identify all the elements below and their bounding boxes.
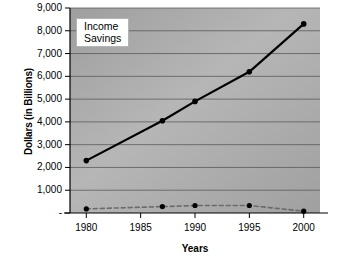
data-point-savings bbox=[301, 209, 306, 214]
data-point-savings bbox=[160, 204, 165, 209]
chart-legend: Income Savings bbox=[76, 18, 129, 47]
data-point-income bbox=[160, 118, 166, 124]
data-point-income bbox=[247, 69, 253, 75]
x-tick-label: 1990 bbox=[175, 222, 215, 233]
x-axis-title: Years bbox=[70, 243, 320, 254]
data-point-savings bbox=[192, 203, 197, 208]
data-point-savings bbox=[247, 203, 252, 208]
legend-item-savings: Savings bbox=[84, 32, 121, 44]
x-tick-label: 2000 bbox=[284, 222, 324, 233]
data-point-savings bbox=[84, 206, 89, 211]
x-tick-label: 1980 bbox=[66, 222, 106, 233]
data-point-income bbox=[301, 21, 307, 27]
data-point-income bbox=[84, 158, 90, 164]
line-chart: Dollars (in Billions) -1,0002,0003,0004,… bbox=[0, 0, 347, 261]
data-point-income bbox=[192, 99, 198, 105]
x-tick-label: 1985 bbox=[121, 222, 161, 233]
x-tick-label: 1995 bbox=[229, 222, 269, 233]
legend-item-income: Income bbox=[84, 20, 121, 32]
